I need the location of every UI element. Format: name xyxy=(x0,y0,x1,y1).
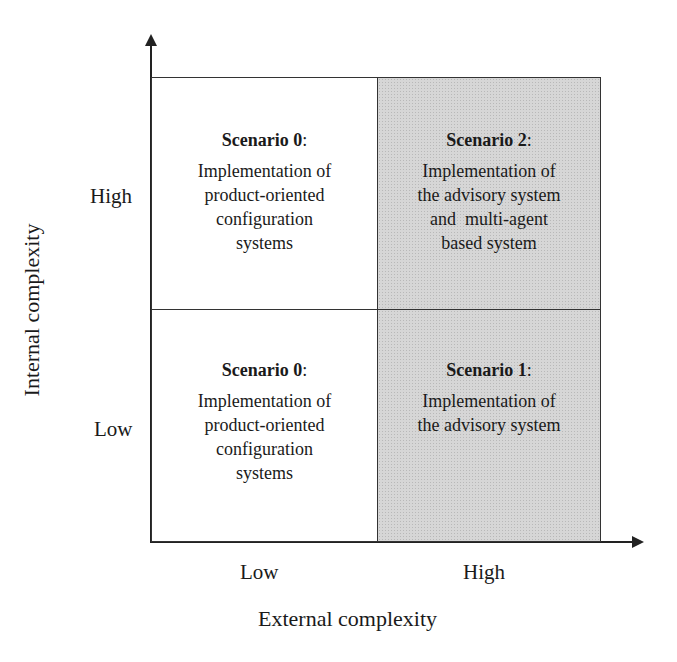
cell-title: Scenario 0: xyxy=(222,130,308,151)
cell-description: Implementation ofproduct-oriented config… xyxy=(198,159,331,255)
x-axis-arrow-icon xyxy=(632,536,644,548)
cell-top-right: Scenario 2: Implementation ofthe advisor… xyxy=(377,77,601,310)
cell-bottom-left: Scenario 0: Implementation ofproduct-ori… xyxy=(151,309,378,542)
cell-title: Scenario 1: xyxy=(446,360,532,381)
x-tick-high: High xyxy=(463,560,505,585)
cell-bottom-right: Scenario 1: Implementation ofthe advisor… xyxy=(377,309,601,542)
quadrant-grid: Scenario 0: Implementation ofproduct-ori… xyxy=(151,77,601,542)
cell-title: Scenario 0: xyxy=(222,360,308,381)
cell-description: Implementation ofproduct-oriented config… xyxy=(198,389,331,485)
y-axis-arrow-icon xyxy=(145,34,157,46)
y-tick-low: Low xyxy=(94,417,133,442)
cell-top-left: Scenario 0: Implementation ofproduct-ori… xyxy=(151,77,378,310)
x-tick-low: Low xyxy=(240,560,279,585)
cell-description: Implementation ofthe advisory system xyxy=(418,389,561,437)
cell-title: Scenario 2: xyxy=(446,130,532,151)
cell-description: Implementation ofthe advisory system and… xyxy=(418,159,561,255)
y-axis-label: Internal complexity xyxy=(19,224,45,397)
y-tick-high: High xyxy=(90,184,132,209)
x-axis-label: External complexity xyxy=(258,606,437,632)
